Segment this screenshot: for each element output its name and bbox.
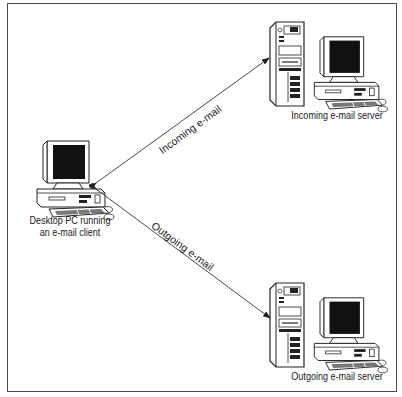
outgoing-server-workstation-icon [314, 298, 387, 373]
desktop-pc-label: Desktop PC running an e-mail client [27, 214, 113, 238]
desktop-pc-icon [37, 141, 114, 220]
diagram-canvas [0, 0, 402, 397]
incoming-server-workstation-icon [314, 37, 387, 112]
incoming-server-tower-icon [270, 22, 304, 106]
incoming-server-label: Incoming e-mail server [281, 109, 393, 121]
incoming-email-arrow [96, 58, 269, 183]
desktop-pc-label-line1: Desktop PC running [27, 214, 113, 226]
outgoing-server-label: Outgoing e-mail server [281, 370, 393, 382]
desktop-pc-label-line2: an e-mail client [27, 226, 113, 238]
outgoing-server-tower-icon [270, 283, 304, 367]
